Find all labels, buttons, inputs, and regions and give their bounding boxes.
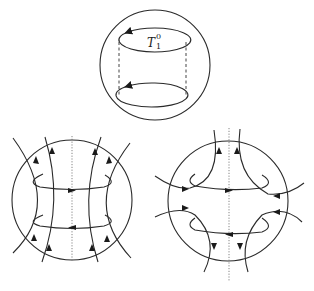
- torus-label: T01: [147, 36, 161, 50]
- flow-line-inner-left: [42, 137, 54, 262]
- flow-line-inner-right: [89, 137, 101, 262]
- bottom-oriented-circle: [116, 83, 188, 107]
- bottom-left-panel: [12, 136, 132, 262]
- top-panel: [100, 10, 210, 120]
- flow-line-lower-left: [155, 210, 210, 272]
- figure-canvas: T01: [0, 0, 314, 291]
- right-ball-circle: [168, 141, 288, 261]
- flow-line-lower-right: [245, 211, 302, 272]
- bottom-right-panel: [155, 128, 304, 282]
- left-ball-circle: [12, 140, 132, 260]
- torus-label-base: T: [147, 36, 155, 50]
- outer-ball-circle: [100, 10, 210, 120]
- torus-label-subscript: 1: [156, 42, 161, 51]
- torus-label-superscript: 0: [156, 32, 161, 41]
- flow-line-upper-right: [239, 129, 304, 194]
